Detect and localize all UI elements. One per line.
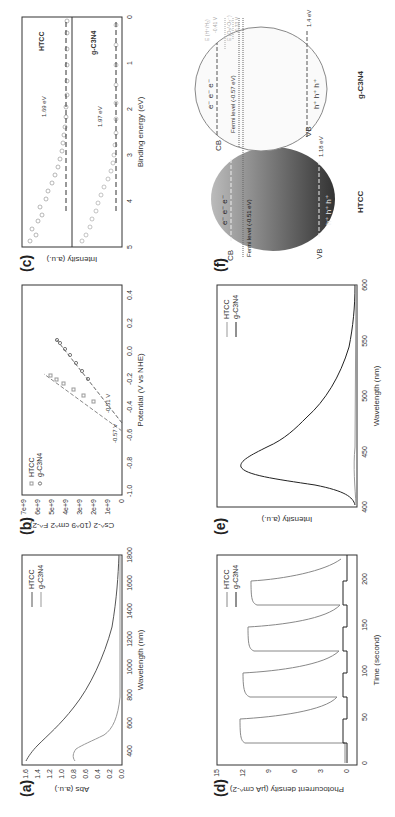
gcn-electrons: e⁻ e⁻ e⁻ [206,79,215,109]
svg-text:550: 550 [361,335,368,347]
htcc-pl-curve [354,285,356,505]
svg-text:4e+9: 4e+9 [62,499,69,515]
svg-text:g-C3N4: g-C3N4 [232,565,240,589]
svg-text:6: 6 [291,769,298,773]
svg-text:5: 5 [126,245,133,249]
y-axis-label: Intensity (a.u.) [261,515,312,524]
gcn-fit-line [56,339,122,423]
svg-text:-0.8: -0.8 [126,457,133,469]
htcc-cb-label: CB [226,250,235,261]
svg-text:1000: 1000 [126,659,133,675]
svg-text:15: 15 [213,769,220,777]
htcc-photocurrent-trace [240,559,345,763]
svg-text:3e+9: 3e+9 [76,499,83,515]
svg-text:400: 400 [126,745,133,757]
svg-text:4: 4 [126,199,133,203]
y-ticks: 0 1e+9 2e+9 3e+9 4e+9 5e+9 6e+9 7e+9 [20,499,125,515]
htcc-points [49,374,95,403]
gcn-label: g-C3N4 [90,30,98,55]
gcn-cb-label: CB [214,140,223,151]
htcc-electrons: e⁻ e⁻ e⁻ [220,195,229,225]
x-axis-label: Binding energy (eV) [136,96,145,167]
x-ticks: 5 4 3 2 1 0 [126,15,133,249]
htcc-caption: HTCC [356,191,365,213]
svg-text:5e+9: 5e+9 [48,499,55,515]
gcn-fermi-label: Fermi level (-0.57 eV) [230,75,236,133]
x-axis-label: Potential (V vs NHE) [136,353,145,427]
svg-text:1e+9: 1e+9 [104,499,111,515]
svg-text:9: 9 [265,769,272,773]
htcc-vbm-label: 1.69 eV [41,96,47,117]
svg-text:0: 0 [361,761,368,765]
svg-text:2: 2 [126,107,133,111]
y-ticks: 0 3 6 9 12 15 [213,769,350,777]
svg-text:200: 200 [361,573,368,585]
legend: HTCC g-C3N4 [28,453,44,485]
svg-text:2e+9: 2e+9 [90,499,97,515]
svg-text:HTCC: HTCC [223,570,230,589]
svg-text:1200: 1200 [126,631,133,647]
gcn-intercept-label: -0.51 V [105,394,111,413]
svg-text:0: 0 [118,499,125,503]
panel-b-mott-schottky: 0 1e+9 2e+9 3e+9 4e+9 5e+9 6e+9 7e+9 -1.… [0,277,194,547]
panel-a-plot: 0.0 0.2 0.4 0.6 0.8 1.0 1.2 1.4 1.6 400 … [0,547,190,817]
svg-text:1800: 1800 [126,547,133,563]
legend: HTCC g-C3N4 [28,565,45,607]
svg-text:1.0: 1.0 [58,769,65,779]
panel-c-plot: 5 4 3 2 1 0 Binding energy (eV) Intensit… [0,0,190,277]
svg-text:3: 3 [126,153,133,157]
gcn-photocurrent-trace [343,555,347,763]
h2-potential-label: E (H⁺/H₂) [204,19,210,41]
svg-text:400: 400 [361,501,368,513]
htcc-vb-energy: 1.18 eV [318,136,324,157]
svg-text:0.4: 0.4 [126,290,133,300]
svg-text:12: 12 [239,769,246,777]
svg-text:1400: 1400 [126,603,133,619]
svg-text:g-C3N4: g-C3N4 [232,295,240,319]
svg-text:6e+9: 6e+9 [34,499,41,515]
o2-potential-value: -0.33 V [234,16,240,33]
svg-text:1.6: 1.6 [22,769,29,779]
svg-text:0.4: 0.4 [94,769,101,779]
svg-text:3: 3 [317,769,324,773]
x-axis-label: Wavelength (nm) [372,365,381,426]
svg-text:50: 50 [361,713,368,721]
htcc-holes: h⁺ h⁺ h⁺ [324,195,333,225]
x-ticks: 400 600 800 1000 1200 1400 1600 1800 [126,547,133,757]
gcn-caption: g-C3N4 [356,70,365,99]
htcc-fermi-label: Fermi level (-0.51 eV) [246,199,252,257]
svg-text:450: 450 [361,446,368,458]
x-ticks: -1.0 -0.8 -0.6 -0.4 -0.2 0.0 0.2 0.4 [126,290,133,497]
x-ticks: 0 50 100 150 200 [361,573,368,765]
gcn-points [80,23,118,243]
legend: HTCC g-C3N4 [223,295,240,337]
y-axis-label: Photocurrent density (μA cm^-2) [230,785,345,794]
panel-d-plot: 0 3 6 9 12 15 0 50 100 150 200 Time (sec… [195,547,395,817]
svg-text:-0.2: -0.2 [126,373,133,385]
svg-text:150: 150 [361,619,368,631]
x-axis-label: Time (second) [372,634,381,685]
svg-text:0: 0 [126,15,133,19]
svg-text:7e+9: 7e+9 [20,499,27,515]
o2-potential-label: E (O₂/·O₂⁻) [226,15,232,41]
y-ticks: 0.0 0.2 0.4 0.6 0.8 1.0 1.2 1.4 1.6 [22,769,125,779]
svg-text:-1.0: -1.0 [126,485,133,497]
svg-text:500: 500 [361,390,368,402]
svg-text:0: 0 [343,769,350,773]
svg-text:100: 100 [361,665,368,677]
gcn-vb-energy: 1.4 eV [306,10,312,27]
x-ticks: 400 450 500 550 600 [361,279,368,513]
y-axis-label: Abs (a.u.) [54,785,89,794]
x-axis-label: Wavelength (nm) [136,629,145,690]
svg-text:HTCC: HTCC [223,300,230,319]
svg-text:0.2: 0.2 [126,318,133,328]
svg-text:HTCC: HTCC [28,570,35,589]
htcc-vb-label: VB [315,248,324,259]
svg-text:-0.4: -0.4 [126,401,133,413]
svg-text:1.2: 1.2 [46,769,53,779]
panel-e-plot: 400 450 500 550 600 Wavelength (nm) Inte… [195,277,395,547]
svg-text:800: 800 [126,689,133,701]
htcc-label: HTCC [38,32,45,51]
panel-f-diagram: CB VB e⁻ e⁻ e⁻ h⁺ h⁺ h⁺ Fermi level (-0.… [195,0,395,277]
svg-text:1.4: 1.4 [34,769,41,779]
